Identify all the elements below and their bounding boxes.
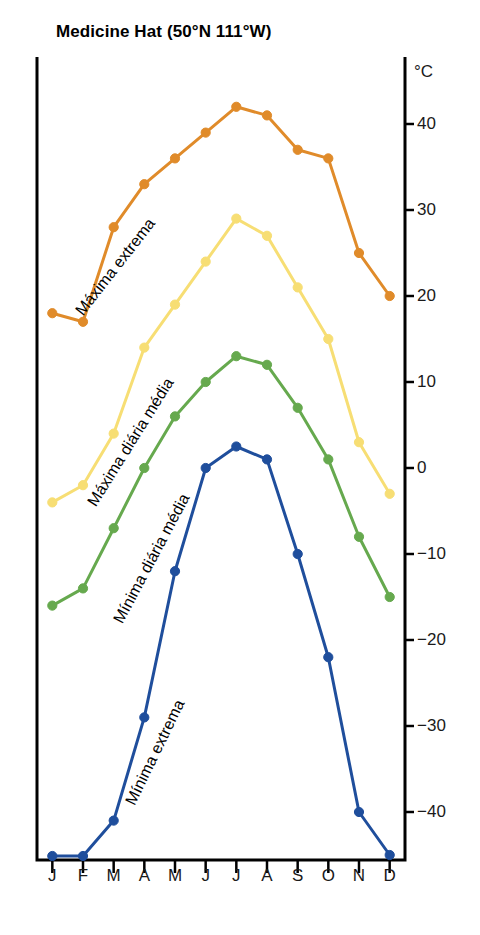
y-tick-label-10: 10 — [417, 372, 436, 392]
x-tick-label-7: A — [261, 866, 272, 886]
x-tick-label-10: N — [353, 866, 365, 886]
y-tick-label-minus40: −40 — [417, 802, 446, 822]
x-tick-label-2: M — [107, 866, 121, 886]
x-tick-label-11: D — [384, 866, 396, 886]
y-tick-label-0: 0 — [417, 458, 426, 478]
y-tick-label-30: 30 — [417, 200, 436, 220]
x-tick-label-5: J — [201, 866, 210, 886]
y-tick-label-minus10: −10 — [417, 544, 446, 564]
x-tick-label-8: S — [292, 866, 303, 886]
x-tick-label-9: O — [322, 866, 335, 886]
y-tick-label-20: 20 — [417, 286, 436, 306]
y-tick-label-minus20: −20 — [417, 630, 446, 650]
y-tick-label-minus30: −30 — [417, 716, 446, 736]
x-tick-label-6: J — [232, 866, 241, 886]
x-tick-label-1: F — [78, 866, 88, 886]
y-tick-label-40: 40 — [417, 114, 436, 134]
climate-chart — [0, 0, 480, 935]
x-tick-label-0: J — [48, 866, 57, 886]
x-tick-label-4: M — [168, 866, 182, 886]
x-tick-label-3: A — [139, 866, 150, 886]
